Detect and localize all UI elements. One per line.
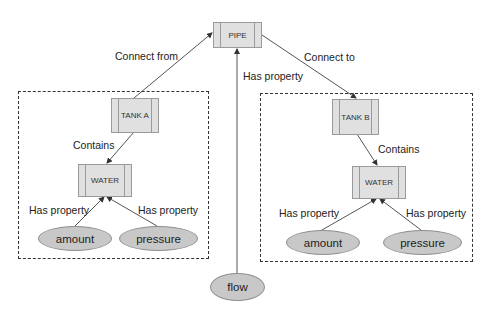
edge-label-has-property-amount-b: Has property bbox=[279, 208, 339, 219]
edge-label-connect-to: Connect to bbox=[304, 52, 355, 63]
node-tank-b: TANK B bbox=[332, 99, 379, 135]
property-pressure-b: pressure bbox=[383, 230, 462, 255]
node-water-a-label: WATER bbox=[91, 176, 119, 185]
property-pressure-b-label: pressure bbox=[400, 237, 445, 249]
property-flow: flow bbox=[210, 273, 265, 301]
edge-label-connect-from: Connect from bbox=[115, 51, 178, 62]
node-tank-a: TANK A bbox=[111, 98, 159, 133]
node-tank-b-label: TANK B bbox=[341, 113, 369, 122]
edge-label-contains-a: Contains bbox=[73, 140, 114, 151]
node-pipe-label: PIPE bbox=[228, 31, 246, 40]
edge-connect-from bbox=[134, 33, 212, 98]
edge-label-has-property-pressure-b: Has property bbox=[406, 208, 466, 219]
edge-label-has-property-pressure-a: Has property bbox=[138, 205, 198, 216]
edge-label-pipe-has-property: Has property bbox=[243, 71, 303, 82]
node-water-a: WATER bbox=[78, 164, 132, 197]
property-amount-b: amount bbox=[286, 230, 360, 255]
node-water-b: WATER bbox=[352, 166, 406, 199]
edge-label-contains-b: Contains bbox=[378, 144, 419, 155]
edge-contains-b bbox=[357, 134, 377, 165]
property-pressure-a-label: pressure bbox=[136, 233, 181, 245]
property-amount-b-label: amount bbox=[304, 237, 342, 249]
node-pipe: PIPE bbox=[213, 22, 262, 48]
edge-connect-to bbox=[262, 35, 356, 98]
edge-label-has-property-amount-a: Has property bbox=[29, 205, 89, 216]
property-flow-label: flow bbox=[227, 281, 247, 293]
property-pressure-a: pressure bbox=[119, 226, 198, 251]
node-water-b-label: WATER bbox=[365, 178, 393, 187]
property-amount-a: amount bbox=[38, 226, 112, 251]
node-tank-a-label: TANK A bbox=[121, 111, 149, 120]
property-amount-a-label: amount bbox=[56, 233, 94, 245]
